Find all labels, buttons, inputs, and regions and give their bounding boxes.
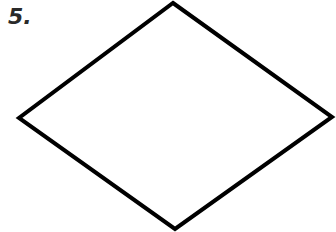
rhombus-diagram — [0, 0, 336, 232]
rhombus-shape — [19, 3, 332, 229]
